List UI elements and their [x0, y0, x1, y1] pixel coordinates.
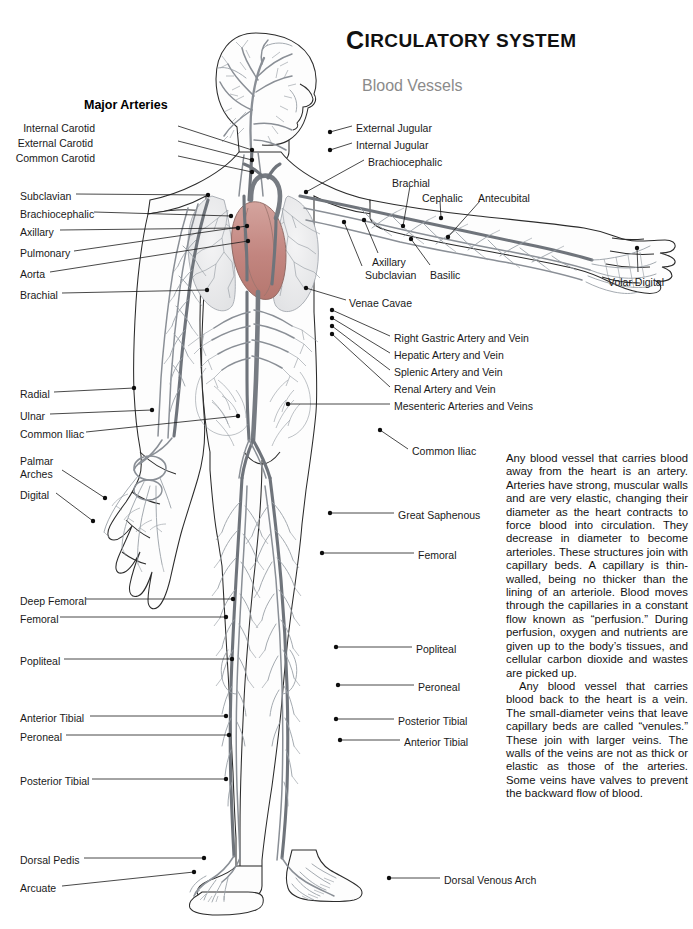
- leader-dot-deep-femoral: [231, 597, 235, 601]
- left-arm-outline: [108, 210, 206, 609]
- leader-dot-splenic-artery-and-vein: [330, 324, 334, 328]
- leader-line-internal-carotid: [178, 126, 252, 150]
- leader-dot-palmar: [103, 496, 107, 500]
- leader-dot-peroneal: [227, 733, 231, 737]
- leader-dot-anterior-tibial: [224, 714, 228, 718]
- leader-line-common-carotid: [178, 156, 252, 172]
- leader-dot-dorsal-venous-arch: [387, 876, 391, 880]
- vessel-label-peroneal: Peroneal: [20, 731, 62, 743]
- vessel-label-dorsal-pedis: Dorsal Pedis: [20, 854, 80, 866]
- leader-line-external-jugular: [330, 126, 352, 132]
- page-title: CIRCULATORY SYSTEM: [346, 30, 576, 52]
- leader-dot-digital: [91, 519, 95, 523]
- vessel-label-axillary: Axillary: [20, 226, 54, 238]
- vessel-label-brachial: Brachial: [20, 289, 58, 301]
- leader-line-aorta: [50, 241, 248, 272]
- vessel-label-peroneal: Peroneal: [418, 681, 460, 693]
- vessel-label-femoral: Femoral: [20, 613, 59, 625]
- leader-dot-popliteal: [230, 657, 234, 661]
- vessel-label-arcuate: Arcuate: [20, 882, 56, 894]
- leader-line-splenic-artery-and-vein: [332, 326, 390, 370]
- vessel-label-popliteal: Popliteal: [416, 643, 456, 655]
- descriptive-text-block: Any blood vessel that carries blood away…: [506, 452, 688, 801]
- leader-line-common-iliac: [86, 416, 238, 432]
- leader-dot-common-iliac: [378, 428, 382, 432]
- vessel-label-radial: Radial: [20, 388, 50, 400]
- leader-dot-brachiocephalic: [229, 214, 233, 218]
- leader-line-volar-digital: [637, 248, 638, 272]
- vessel-label-dorsal-venous-arch: Dorsal Venous Arch: [444, 874, 536, 886]
- body-paragraph-2: Any blood vessel that carries blood back…: [506, 680, 688, 801]
- vessel-label-renal-artery-and-vein: Renal Artery and Vein: [394, 383, 496, 395]
- vessel-label-subclavian: Subclavian: [20, 190, 71, 202]
- leader-dot-brachial: [205, 288, 209, 292]
- leader-dot-common-iliac: [236, 414, 240, 418]
- vessel-label-volar-digital: Volar Digital: [608, 276, 664, 288]
- vessel-label-venae-cavae: Venae Cavae: [349, 297, 412, 309]
- page-subtitle: Blood Vessels: [362, 77, 463, 95]
- vessel-label-popliteal: Popliteal: [20, 655, 60, 667]
- vessel-label-femoral: Femoral: [418, 549, 457, 561]
- leader-dot-mesenteric-arteries-and-veins: [286, 402, 290, 406]
- leader-dot-brachial: [401, 224, 405, 228]
- leader-dot-femoral: [320, 551, 324, 555]
- vessel-label-brachiocephalic: Brachiocephalic: [368, 156, 442, 168]
- vessel-label-aorta: Aorta: [20, 268, 45, 280]
- vessel-label-right-gastric-artery-and-vein: Right Gastric Artery and Vein: [394, 332, 529, 344]
- leader-dot-popliteal: [334, 645, 338, 649]
- leader-dot-subclavian: [342, 220, 346, 224]
- leader-line-brachial: [403, 186, 410, 226]
- leader-dot-radial: [132, 386, 136, 390]
- leader-dot-ulnar: [150, 408, 154, 412]
- leader-dot-arcuate: [192, 870, 196, 874]
- leader-line-antecubital: [448, 201, 480, 237]
- vessel-label-common-carotid: Common Carotid: [16, 152, 95, 164]
- heart: [231, 164, 286, 440]
- leader-dot-aorta: [246, 239, 250, 243]
- body-paragraph-1: Any blood vessel that carries blood away…: [506, 452, 688, 680]
- vessel-label-posterior-tibial: Posterior Tibial: [398, 715, 467, 727]
- vessel-label-internal-carotid: Internal Carotid: [23, 122, 95, 134]
- vessel-label-common-iliac: Common Iliac: [20, 428, 84, 440]
- abdominal-vessels: [188, 310, 318, 478]
- leader-line-brachiocephalic: [94, 212, 231, 216]
- leader-line-arcuate: [62, 872, 194, 886]
- vessel-label-external-carotid: External Carotid: [18, 137, 93, 149]
- vessel-label-palmar: Palmar: [20, 455, 53, 467]
- vessel-label-splenic-artery-and-vein: Splenic Artery and Vein: [394, 366, 503, 378]
- foot-vessels: [190, 856, 336, 902]
- vessel-label-hepatic-artery-and-vein: Hepatic Artery and Vein: [394, 349, 504, 361]
- lungs: [188, 196, 320, 312]
- vessel-label-mesenteric-arteries-and-veins: Mesenteric Arteries and Veins: [394, 400, 533, 412]
- leader-dot-dorsal-pedis: [202, 856, 206, 860]
- leader-line-ulnar: [50, 410, 152, 414]
- vessel-label-cephalic: Cephalic: [422, 192, 463, 204]
- vessel-label-subclavian: Subclavian: [365, 269, 416, 281]
- leader-dot-pulmonary: [245, 224, 249, 228]
- vessel-label-common-iliac: Common Iliac: [412, 445, 476, 457]
- leader-dot-posterior-tibial: [334, 717, 338, 721]
- vessel-label-brachial: Brachial: [392, 177, 430, 189]
- leader-dot-volar-digital: [635, 246, 639, 250]
- title-drop-cap: C: [346, 26, 364, 54]
- leader-dot-peroneal: [336, 683, 340, 687]
- leader-dot-internal-jugular: [328, 148, 332, 152]
- vessel-label-external-jugular: External Jugular: [356, 122, 432, 134]
- leader-dot-venae-cavae: [304, 286, 308, 290]
- vessel-label-internal-jugular: Internal Jugular: [356, 139, 428, 151]
- leader-line-subclavian: [76, 194, 208, 195]
- leader-dot-posterior-tibial: [224, 777, 228, 781]
- vessel-label-ulnar: Ulnar: [20, 410, 45, 422]
- vessel-label-axillary: Axillary: [372, 256, 406, 268]
- leader-dot-internal-carotid: [250, 148, 254, 152]
- leader-dot-great-saphenous: [328, 511, 332, 515]
- vessel-label-anterior-tibial: Anterior Tibial: [20, 712, 84, 724]
- leader-line-right-gastric-artery-and-vein: [332, 310, 390, 336]
- torso-surface-vessels: [212, 380, 294, 446]
- leader-dot-brachiocephalic: [304, 190, 308, 194]
- leader-dot-femoral: [224, 615, 228, 619]
- body-outline: [148, 33, 372, 915]
- leader-line-digital: [56, 493, 93, 521]
- leader-dot-subclavian: [206, 193, 210, 197]
- vessel-label-great-saphenous: Great Saphenous: [398, 509, 480, 521]
